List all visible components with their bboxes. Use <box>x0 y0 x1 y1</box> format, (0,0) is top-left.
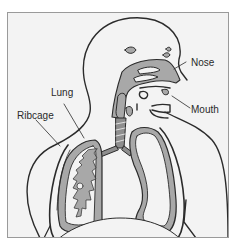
label-ribcage: Ribcage <box>17 111 54 121</box>
respiratory-system-illustration <box>0 0 232 250</box>
label-mouth: Mouth <box>191 105 219 115</box>
label-lung: Lung <box>51 88 73 98</box>
label-nose: Nose <box>191 58 214 68</box>
